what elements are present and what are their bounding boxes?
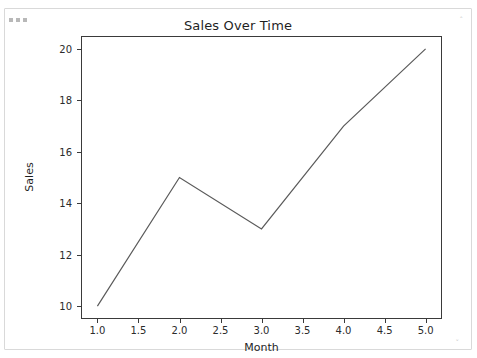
x-axis-label: Month [81,341,442,354]
x-tick-mark [426,319,427,323]
matplotlib-figure: Sales Over Time 101214161820 1.01.52.02.… [5,9,471,349]
plot-canvas [81,36,442,319]
data-series-line [97,49,425,306]
y-tick-label: 14 [59,198,72,209]
x-tick-mark [180,319,181,323]
x-tick-mark [344,319,345,323]
y-tick-label: 18 [59,95,72,106]
chart-window: ˄ ˅ Sales Over Time 101214161820 1.01.52… [4,8,472,350]
x-tick-mark [138,319,139,323]
x-tick-label: 4.5 [377,325,393,336]
y-tick-mark [77,152,81,153]
x-tick-label: 2.5 [213,325,229,336]
x-tick-label: 3.5 [295,325,311,336]
y-tick-label: 12 [59,249,72,260]
x-tick-mark [221,319,222,323]
y-tick-mark [77,203,81,204]
y-tick-mark [77,49,81,50]
x-tick-mark [303,319,304,323]
y-tick-label: 10 [59,301,72,312]
x-tick-mark [97,319,98,323]
y-tick-mark [77,306,81,307]
x-tick-mark [385,319,386,323]
y-tick-mark [77,100,81,101]
x-tick-label: 4.0 [336,325,352,336]
y-tick-label: 16 [59,146,72,157]
x-tick-label: 5.0 [418,325,434,336]
x-tick-label: 1.5 [130,325,146,336]
x-tick-label: 3.0 [254,325,270,336]
x-tick-label: 1.0 [89,325,105,336]
x-tick-label: 2.0 [172,325,188,336]
y-tick-label: 20 [59,43,72,54]
x-tick-mark [262,319,263,323]
chart-title: Sales Over Time [5,18,471,33]
y-tick-mark [77,255,81,256]
y-axis-label: Sales [23,162,36,191]
